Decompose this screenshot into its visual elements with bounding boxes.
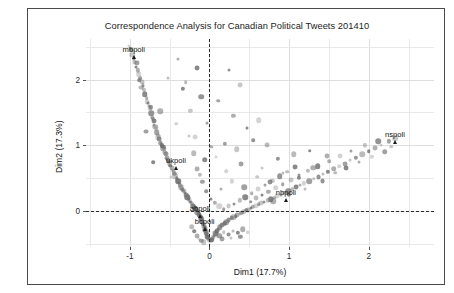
data-point <box>233 202 236 205</box>
data-point <box>151 161 155 165</box>
gridline-horizontal <box>86 244 434 245</box>
data-point <box>231 114 235 118</box>
data-point <box>253 196 258 201</box>
x-tick-mark <box>130 247 131 250</box>
data-point <box>308 149 312 153</box>
data-point <box>224 169 228 173</box>
data-point <box>350 149 353 152</box>
gridline-vertical <box>130 39 131 247</box>
x-tick-mark <box>209 247 210 250</box>
annotation-label-ukpoli: ukpoli <box>166 156 186 165</box>
x-tick-label: 2 <box>366 252 371 261</box>
data-point <box>229 236 232 239</box>
plot-frame: Correspondence Analysis for Canadian Pol… <box>27 8 445 285</box>
data-point <box>255 175 259 179</box>
annotation-label-abpoli: abpoli <box>190 204 210 213</box>
data-point <box>174 122 178 126</box>
data-point <box>238 198 242 202</box>
y-tick-mark <box>83 145 86 146</box>
data-point <box>138 79 142 83</box>
data-point <box>363 143 367 147</box>
y-tick-label: 1 <box>68 141 80 150</box>
data-point <box>306 179 312 185</box>
data-point <box>266 190 270 194</box>
data-point <box>153 124 159 130</box>
gridline-vertical <box>90 39 91 247</box>
data-point <box>268 180 273 185</box>
data-point <box>277 173 283 179</box>
data-point <box>176 57 179 60</box>
figure-canvas: Correspondence Analysis for Canadian Pol… <box>0 0 454 293</box>
data-point <box>344 165 349 170</box>
data-point <box>249 200 253 204</box>
data-point <box>230 179 234 183</box>
data-point <box>325 153 330 158</box>
data-point <box>303 187 306 190</box>
data-point <box>270 198 276 204</box>
data-point <box>333 171 337 175</box>
data-point <box>176 179 182 185</box>
data-point <box>367 149 371 153</box>
y-axis-label: Dim2 (17.3%) <box>54 120 64 173</box>
data-point <box>360 152 366 158</box>
annotation-label-bcpoli: bcpoli <box>195 217 215 226</box>
annotation-marker <box>393 140 397 144</box>
data-point <box>148 105 152 109</box>
data-point <box>327 159 331 163</box>
x-axis-label: Dim1 (17.7%) <box>86 267 434 277</box>
zero-line-horizontal <box>86 211 434 212</box>
data-point <box>138 85 143 90</box>
gridline-horizontal <box>86 178 434 179</box>
data-point <box>193 135 198 140</box>
data-point <box>250 191 254 195</box>
annotation-marker <box>284 198 288 202</box>
data-point <box>178 185 184 191</box>
data-point <box>189 200 192 203</box>
data-point <box>200 180 204 184</box>
data-point <box>216 99 220 103</box>
data-point <box>232 229 235 232</box>
annotation-marker <box>203 227 207 231</box>
data-point <box>282 171 285 174</box>
data-point <box>142 83 145 86</box>
data-point <box>234 146 240 152</box>
data-point <box>240 227 246 233</box>
data-point <box>245 127 248 130</box>
data-point <box>276 157 280 161</box>
data-point <box>181 87 185 91</box>
x-tick-mark <box>369 247 370 250</box>
data-point <box>216 204 222 210</box>
data-point <box>264 143 269 148</box>
data-point <box>256 118 262 124</box>
y-tick-label: 2 <box>68 75 80 84</box>
data-point <box>201 240 207 246</box>
data-point <box>242 185 248 191</box>
data-point <box>312 177 316 181</box>
data-point <box>184 80 188 84</box>
data-point <box>256 187 261 192</box>
data-point <box>226 204 231 209</box>
data-point <box>214 156 217 159</box>
annotation-label-mbpoli: mbpoli <box>123 45 145 54</box>
data-point <box>299 184 302 187</box>
data-point <box>187 135 190 138</box>
data-point <box>298 174 301 177</box>
chart-title: Correspondence Analysis for Canadian Pol… <box>28 21 446 31</box>
data-point <box>220 237 225 242</box>
x-tick-label: 0 <box>207 252 212 261</box>
y-tick-mark <box>83 80 86 81</box>
gridline-vertical <box>329 39 330 247</box>
data-point <box>382 149 388 155</box>
gridline-vertical <box>409 39 410 247</box>
annotation-marker <box>132 55 136 59</box>
data-point <box>306 169 310 173</box>
y-tick-label: 0 <box>68 206 80 215</box>
data-point <box>246 230 250 234</box>
data-point <box>143 129 148 134</box>
data-point <box>191 150 197 156</box>
data-point <box>337 164 341 168</box>
x-tick-label: -1 <box>126 252 133 261</box>
data-point <box>198 173 202 177</box>
data-point <box>358 161 361 164</box>
data-point <box>251 138 255 142</box>
